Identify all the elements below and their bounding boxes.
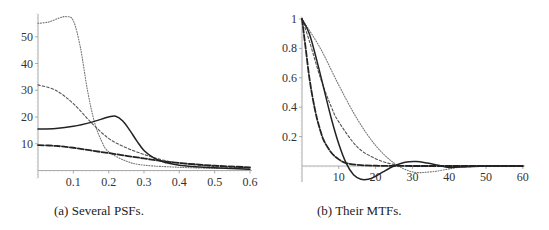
x-tick-label: 0.1 [66, 175, 81, 189]
x-tick-label: 0.4 [172, 175, 187, 189]
series-line-short-dash [302, 19, 523, 166]
series-line-dotted [38, 17, 250, 169]
x-tick-label: 0.6 [242, 175, 257, 189]
x-tick-label: 50 [480, 170, 492, 184]
y-tick-label: 10 [21, 137, 33, 151]
x-tick-label: 0.2 [101, 175, 116, 189]
y-tick-label: 0.8 [282, 41, 297, 55]
y-tick-label: 0.4 [282, 100, 297, 114]
caption-psf-chart: (a) Several PSFs. [54, 203, 144, 219]
y-tick-label: 40 [21, 57, 33, 71]
series-line-solid [38, 116, 250, 169]
y-tick-label: 1 [291, 12, 297, 26]
psf-chart: 0.10.20.30.40.50.61020304050 [21, 14, 257, 189]
series-line-solid [302, 19, 523, 180]
series-line-dotted [302, 19, 523, 173]
caption-mtf-chart: (b) Their MTFs. [317, 203, 402, 219]
y-tick-label: 50 [21, 30, 33, 44]
x-tick-label: 0.3 [136, 175, 151, 189]
x-tick-label: 40 [443, 170, 455, 184]
x-tick-label: 60 [517, 170, 529, 184]
series-line-long-dash [302, 19, 523, 166]
y-tick-label: 0.6 [282, 71, 297, 85]
y-tick-label: 30 [21, 83, 33, 97]
mtf-chart: 1020304050600.20.40.60.81 [282, 12, 529, 184]
series-line-long-dash [38, 145, 250, 167]
figure-canvas: 0.10.20.30.40.50.61020304050 10203040506… [0, 0, 549, 230]
x-tick-label: 10 [333, 170, 345, 184]
y-tick-label: 20 [21, 110, 33, 124]
y-tick-label: 0.2 [282, 130, 297, 144]
x-tick-label: 0.5 [207, 175, 222, 189]
